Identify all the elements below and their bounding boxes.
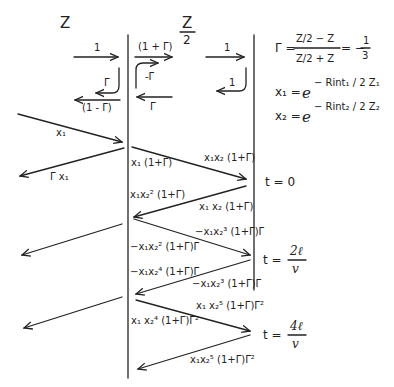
middle-reflection-label: -Γ <box>145 71 155 82</box>
wave-label-10: −x₁x₂³ (1+Γ)Γ <box>192 278 262 289</box>
left-reflection-label: Γ <box>104 77 110 88</box>
wave-label-5: x₁x₂² (1+Γ) <box>130 189 185 200</box>
wave-label-13: x₁x₂⁵ (1+Γ)Γ² <box>190 354 255 365</box>
gamma-lhs: Γ = <box>275 41 296 55</box>
wave-arrow-5 <box>22 224 122 255</box>
wave-label-2: Γ x₁ <box>50 171 69 182</box>
left-incident-label: 1 <box>94 42 100 53</box>
middle-impedance-denominator: 2 <box>183 33 191 47</box>
gamma-value-denominator: 3 <box>362 50 368 61</box>
wave-label-4: x₁x₂ (1+Γ) <box>204 152 255 163</box>
x2-base: e <box>302 108 311 126</box>
wave-arrow-8 <box>24 297 122 328</box>
x2-lhs: x₂ = <box>275 109 301 123</box>
time-marker-2-prefix: t = <box>263 328 282 342</box>
right-incident-label: 1 <box>224 42 230 53</box>
time-marker-1-prefix: t = <box>263 253 282 267</box>
x2-exponent: − Rint₂ / 2 Z₂ <box>314 101 380 112</box>
time-marker-0: t = 0 <box>265 175 295 189</box>
left-backward-label: (1 - Γ) <box>82 102 112 113</box>
middle-impedance-numerator: Z <box>182 14 192 32</box>
time-marker-1-denominator: v <box>292 262 299 276</box>
gamma-numerator: Z/2 − Z <box>296 33 334 44</box>
bounce-diagram: Z Z 2 1 Γ (1 - Γ) (1 + Γ) -Γ Γ 1 1 Γ = Z… <box>0 0 394 387</box>
right-reflection-label: 1 <box>229 77 235 88</box>
middle-transmitted-label: (1 + Γ) <box>138 41 173 52</box>
wave-label-7: −x₁x₂³ (1+Γ)Γ <box>195 226 265 237</box>
x1-lhs: x₁ = <box>275 85 301 99</box>
time-marker-2-numerator: 4ℓ <box>289 319 303 333</box>
wave-label-11: x₁ x₂⁵ (1+Γ)Γ² <box>196 300 264 311</box>
wave-label-12: x₁ x₂⁴ (1+Γ)Γ² <box>131 315 199 326</box>
time-marker-1-numerator: 2ℓ <box>289 244 303 258</box>
wave-label-3: x₁ (1+Γ) <box>131 157 172 168</box>
wave-arrow-1 <box>18 114 122 142</box>
gamma-denominator: Z/2 + Z <box>296 53 334 64</box>
wave-arrow-2 <box>20 148 124 176</box>
middle-backward-label: Γ <box>150 101 156 112</box>
x1-exponent: − Rint₁ / 2 Z₁ <box>314 77 380 88</box>
time-marker-2-denominator: v <box>292 337 299 351</box>
wave-label-8: −x₁x₂² (1+Γ)Γ <box>130 241 200 252</box>
x1-base: e <box>302 84 311 102</box>
wave-label-1: x₁ <box>56 127 66 138</box>
gamma-value-numerator: 1 <box>363 35 369 46</box>
wave-label-6: x₁ x₂ (1+Γ) <box>199 201 253 212</box>
left-impedance-label: Z <box>60 14 70 32</box>
wave-label-9: −x₁x₂⁴ (1+Γ)Γ <box>130 266 200 277</box>
